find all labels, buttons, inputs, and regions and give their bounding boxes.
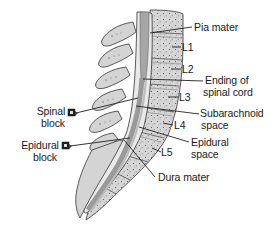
label-ending-of-spinal-cord-line1: Ending of xyxy=(205,74,248,86)
label-l5: L5 xyxy=(161,146,172,158)
label-l3: L3 xyxy=(179,91,190,103)
label-l1: L1 xyxy=(182,41,193,53)
label-pia-mater: Pia mater xyxy=(194,21,238,33)
label-subarachnoid-space-line2: space xyxy=(201,119,229,131)
label-subarachnoid-space-line1: Subarachnoid xyxy=(200,107,264,119)
label-dura-mater: Dura mater xyxy=(158,171,210,183)
label-ending-of-spinal-cord-line2: spinal cord xyxy=(203,86,253,98)
label-spinal-block-line1: Spinal xyxy=(34,105,68,117)
label-l2: L2 xyxy=(182,63,193,75)
label-epidural-space-line1: Epidural xyxy=(191,136,229,148)
label-epidural-space-line2: space xyxy=(191,148,219,160)
label-spinal-block-line2: block xyxy=(38,117,68,129)
label-epidural-block-line1: Epidural xyxy=(18,139,62,151)
label-l4: L4 xyxy=(174,119,185,131)
label-epidural-block-line2: block xyxy=(30,151,60,163)
